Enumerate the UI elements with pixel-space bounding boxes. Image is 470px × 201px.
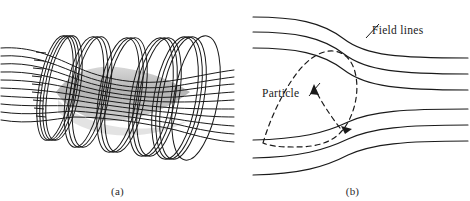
field-lines-label: Field lines [372, 24, 424, 36]
coil-ring-1 [30, 33, 89, 143]
upper-field-line-3 [253, 48, 468, 90]
panel-b: Field lines Particle (b) [235, 0, 470, 201]
orbit-arrow-up [310, 84, 340, 128]
panel-b-caption: (b) [235, 185, 470, 197]
panel-a-drawing [0, 0, 235, 201]
field-lines-label-group: Field lines [366, 24, 424, 38]
lower-field-line-1 [253, 109, 468, 140]
figure-root: (a) [0, 0, 470, 201]
upper-field-line-2 [253, 32, 468, 74]
panel-b-drawing: Field lines Particle [235, 0, 470, 201]
lower-field-lines [253, 109, 468, 175]
upper-field-lines [253, 17, 468, 90]
particle-label: Particle [262, 87, 300, 99]
panel-a: (a) [0, 0, 235, 201]
panel-a-caption: (a) [0, 185, 235, 197]
upper-field-line-1 [253, 17, 468, 58]
lower-field-line-3 [253, 141, 468, 175]
